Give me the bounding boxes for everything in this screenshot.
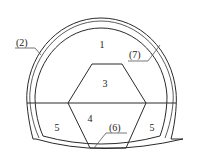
core-hexagon: [68, 64, 146, 148]
region-3-label: 3: [103, 78, 108, 89]
callout-7-label: (7): [129, 49, 141, 61]
region-5-right-label: 5: [150, 122, 155, 133]
tunnel-diagram: 1 3 4 5 5 (2) (7) (6): [0, 0, 200, 164]
region-4-label: 4: [88, 113, 93, 124]
region-5-left-label: 5: [55, 122, 60, 133]
callout-2-label: (2): [16, 37, 28, 49]
invert-upper-line: [43, 136, 160, 144]
callout-2-leader: [15, 48, 41, 55]
callout-6-label: (6): [109, 122, 121, 134]
callout-6-leader: [94, 133, 127, 148]
region-1-label: 1: [100, 39, 105, 50]
